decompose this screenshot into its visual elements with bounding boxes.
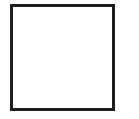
square-outline-shape	[10, 4, 115, 111]
